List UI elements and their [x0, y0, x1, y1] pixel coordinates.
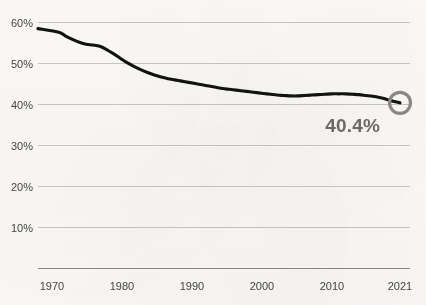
x-tick-label-2021: 2021	[388, 280, 412, 292]
end-value-callout: 40.4%	[325, 115, 380, 136]
y-tick-label-10: 10%	[11, 222, 33, 234]
y-axis-tick-labels: 60% 50% 40% 30% 20% 10%	[11, 17, 33, 234]
x-tick-label-1970: 1970	[40, 280, 64, 292]
y-tick-label-20: 20%	[11, 181, 33, 193]
x-tick-label-1990: 1990	[180, 280, 204, 292]
data-series-line	[38, 29, 400, 103]
y-tick-label-40: 40%	[11, 99, 33, 111]
x-axis-tick-labels: 1970 1980 1990 2000 2010 2021	[40, 280, 412, 292]
line-chart: 60% 50% 40% 30% 20% 10% 1970 1980 1990 2…	[0, 0, 426, 305]
x-tick-label-2000: 2000	[250, 280, 274, 292]
chart-plot-area: 60% 50% 40% 30% 20% 10% 1970 1980 1990 2…	[0, 0, 426, 305]
y-tick-label-50: 50%	[11, 58, 33, 70]
x-tick-label-2010: 2010	[320, 280, 344, 292]
y-tick-label-30: 30%	[11, 140, 33, 152]
x-tick-label-1980: 1980	[110, 280, 134, 292]
y-tick-label-60: 60%	[11, 17, 33, 29]
